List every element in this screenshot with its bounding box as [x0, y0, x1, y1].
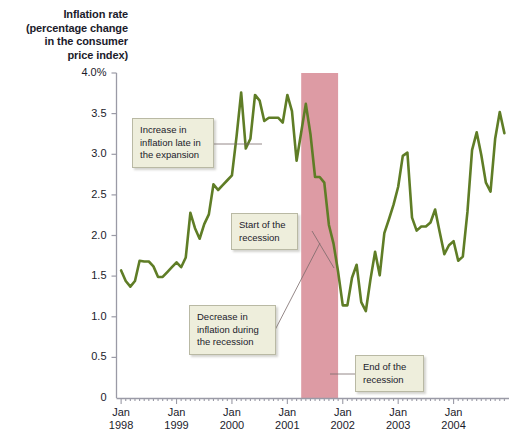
x-axis-tick-month: Jan [168, 406, 186, 418]
chart-figure: Inflation rate (percentage change in the… [0, 0, 521, 447]
y-axis-tick-label: 2.0 [61, 230, 107, 241]
x-axis-tick-label: Jan1998 [98, 406, 144, 432]
x-axis-tick-month: Jan [112, 406, 130, 418]
y-axis-tick-label: 3.5 [61, 108, 107, 119]
annotation-increase-expansion: Increase in inflation late in the expans… [132, 118, 214, 168]
x-axis-tick-label: Jan2003 [375, 406, 421, 432]
y-axis-tick-label: 4.0% [61, 67, 107, 78]
y-axis-tick-label: 1.5 [61, 270, 107, 281]
x-axis-tick-month: Jan [389, 406, 407, 418]
x-axis-tick-month: Jan [445, 406, 463, 418]
y-axis-tick-label: 1.0 [61, 311, 107, 322]
annotation-start-recession: Start of the recession [231, 213, 298, 250]
x-axis-tick-year: 2004 [431, 419, 477, 432]
y-axis-tick-label: 0 [61, 392, 107, 403]
y-axis-ticks [112, 73, 117, 357]
x-axis-tick-year: 2001 [264, 419, 310, 432]
x-axis-tick-year: 1999 [154, 419, 200, 432]
y-axis-tick-label: 3.0 [61, 148, 107, 159]
y-axis-tick-label: 2.5 [61, 189, 107, 200]
x-axis-tick-year: 2000 [209, 419, 255, 432]
y-axis-tick-label: 0.5 [61, 351, 107, 362]
x-axis-tick-label: Jan2000 [209, 406, 255, 432]
x-axis-tick-month: Jan [223, 406, 241, 418]
x-axis-tick-label: Jan2001 [264, 406, 310, 432]
x-axis-tick-label: Jan1999 [154, 406, 200, 432]
annotation-decrease-recession: Decrease in inflation during the recessi… [189, 305, 276, 355]
x-axis-tick-year: 1998 [98, 419, 144, 432]
annotation-end-recession: End of the recession [355, 355, 424, 392]
x-axis-tick-month: Jan [278, 406, 296, 418]
x-axis-tick-label: Jan2002 [320, 406, 366, 432]
x-axis-tick-year: 2002 [320, 419, 366, 432]
x-axis-tick-year: 2003 [375, 419, 421, 432]
x-axis-tick-label: Jan2004 [431, 406, 477, 432]
x-axis-tick-month: Jan [334, 406, 352, 418]
